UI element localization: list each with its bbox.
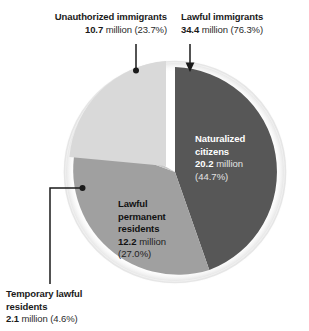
callout-unauthorized-immigrants: Unauthorized immigrants 10.7 million (23… — [12, 11, 167, 36]
slice-label-naturalized-unit: million — [216, 158, 243, 169]
callout-lawful-immigrants: Lawful immigrants 34.4 million (76.3%) — [181, 11, 309, 36]
slice-label-naturalized-citizens: Naturalized citizens 20.2 million (44.7%… — [195, 133, 245, 183]
slice-label-naturalized-stat: 20.2 million — [195, 158, 245, 171]
callout-unauthorized-stat: 10.7 million (23.7%) — [12, 24, 167, 37]
callout-unauthorized-value: 10.7 — [85, 24, 103, 35]
pie-chart-figure: Unauthorized immigrants 10.7 million (23… — [0, 0, 309, 331]
slice-label-naturalized-value: 20.2 — [195, 158, 214, 169]
leader-line-unauthorized — [133, 44, 139, 74]
callout-temporary-lawful-residents: Temporary lawful residents 2.1 million (… — [6, 288, 156, 326]
slice-label-naturalized-percent: (44.7%) — [195, 171, 245, 184]
slice-label-lpr-name-line1: Lawful — [118, 198, 166, 211]
callout-lawful-percent: (76.3%) — [230, 24, 263, 35]
slice-label-lpr-value: 12.2 — [118, 236, 137, 247]
callout-temporary-percent: (4.6%) — [50, 313, 77, 324]
callout-temporary-unit: million — [21, 313, 47, 324]
callout-lawful-stat: 34.4 million (76.3%) — [181, 24, 309, 37]
callout-temporary-value: 2.1 — [6, 313, 19, 324]
callout-lawful-value: 34.4 — [181, 24, 199, 35]
slice-label-lpr-name-line3: residents — [118, 223, 166, 236]
slice-label-lawful-permanent-residents: Lawful permanent residents 12.2 million … — [118, 198, 166, 261]
slice-label-lpr-unit: million — [139, 236, 166, 247]
callout-lawful-unit: million — [202, 24, 228, 35]
slice-label-naturalized-name-line2: citizens — [195, 146, 245, 159]
callout-unauthorized-percent: (23.7%) — [134, 24, 167, 35]
slice-label-lpr-name-line2: permanent — [118, 211, 166, 224]
slice-label-lpr-stat: 12.2 million — [118, 236, 166, 249]
callout-unauthorized-title: Unauthorized immigrants — [12, 11, 167, 24]
callout-temporary-stat: 2.1 million (4.6%) — [6, 313, 156, 326]
callout-unauthorized-unit: million — [106, 24, 132, 35]
slice-label-naturalized-name-line1: Naturalized — [195, 133, 245, 146]
callout-temporary-title-line1: Temporary lawful — [6, 288, 156, 301]
callout-temporary-title-line2: residents — [6, 301, 156, 314]
pie-chart-graphic — [0, 0, 309, 331]
callout-lawful-title: Lawful immigrants — [181, 11, 309, 24]
slice-label-lpr-percent: (27.0%) — [118, 248, 166, 261]
